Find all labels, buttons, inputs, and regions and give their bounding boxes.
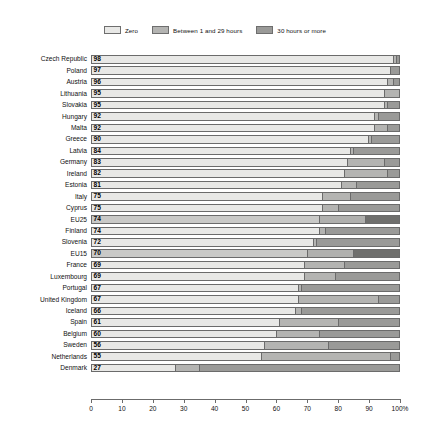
stacked-bar	[91, 352, 400, 361]
bar-value-label: 74	[94, 227, 101, 236]
bar-rows: Czech Republic98Poland97Austria96Lithuan…	[91, 55, 400, 375]
axis-tick-label: 100%	[392, 405, 409, 413]
category-label: Malta	[71, 123, 87, 132]
category-label: Lithuania	[60, 89, 87, 98]
bar-value-label: 60	[94, 330, 101, 339]
stacked-bar	[91, 341, 400, 350]
category-label: Portugal	[62, 283, 87, 292]
axis-tick-label: 40	[211, 405, 218, 413]
stacked-bar	[91, 147, 400, 156]
bar-segment-zero	[92, 228, 319, 235]
bar-segment-zero	[92, 67, 390, 74]
bar-value-label: 95	[94, 101, 101, 110]
bar-row: Hungary92	[91, 112, 400, 121]
category-label: Luxembourg	[50, 272, 87, 281]
axis-tick	[215, 399, 216, 403]
stacked-bar-chart: ZeroBetween 1 and 29 hours30 hours or mo…	[0, 0, 430, 444]
bar-segment-mid	[264, 342, 328, 349]
stacked-bar	[91, 78, 400, 87]
bar-value-label: 81	[94, 181, 101, 190]
category-label: Netherlands	[51, 352, 87, 361]
bar-value-label: 83	[94, 158, 101, 167]
axis-tick	[307, 399, 308, 403]
bar-row: Czech Republic98	[91, 55, 400, 64]
stacked-bar	[91, 307, 400, 316]
bar-segment-zero	[92, 125, 374, 132]
bar-segment-zero	[92, 182, 341, 189]
stacked-bar	[91, 227, 400, 236]
bar-segment-zero	[92, 331, 276, 338]
bar-segment-high	[393, 79, 399, 86]
bar-row: Germany83	[91, 158, 400, 167]
bar-value-label: 95	[94, 89, 101, 98]
bar-segment-zero	[92, 79, 387, 86]
bar-segment-zero	[92, 170, 344, 177]
axis-tick-label: 50	[242, 405, 249, 413]
category-label: Belgium	[63, 329, 87, 338]
bar-segment-high	[301, 308, 399, 315]
bar-segment-mid	[279, 319, 337, 326]
legend-label: Between 1 and 29 hours	[173, 27, 242, 34]
bar-segment-mid	[344, 170, 387, 177]
bar-segment-high	[384, 159, 399, 166]
stacked-bar	[91, 318, 400, 327]
bar-segment-zero	[92, 113, 374, 120]
category-label: EU25	[71, 215, 88, 224]
bar-segment-zero	[92, 193, 322, 200]
bar-value-label: 67	[94, 284, 101, 293]
axis-tick	[276, 399, 277, 403]
bar-value-label: 82	[94, 169, 101, 178]
bar-segment-high	[301, 285, 399, 292]
axis-tick	[400, 399, 401, 403]
stacked-bar	[91, 181, 400, 190]
bar-value-label: 66	[94, 307, 101, 316]
bar-segment-high	[396, 56, 399, 63]
bar-segment-zero	[92, 56, 393, 63]
bar-value-label: 72	[94, 238, 101, 247]
bar-segment-mid	[319, 216, 365, 223]
category-label: Denmark	[60, 363, 87, 372]
bar-value-label: 67	[94, 295, 101, 304]
bar-row: Slovenia72	[91, 238, 400, 247]
bar-segment-high	[328, 342, 399, 349]
legend-swatch-mid	[152, 26, 169, 34]
bar-segment-zero	[92, 296, 298, 303]
axis-tick	[184, 399, 185, 403]
bar-value-label: 96	[94, 78, 101, 87]
bar-segment-mid	[276, 331, 319, 338]
bar-value-label: 74	[94, 215, 101, 224]
stacked-bar	[91, 192, 400, 201]
bar-segment-mid	[322, 205, 337, 212]
bar-segment-zero	[92, 148, 350, 155]
bar-segment-high	[350, 193, 399, 200]
bar-row: EU1570	[91, 249, 400, 258]
legend-item-zero: Zero	[104, 26, 138, 34]
bar-value-label: 75	[94, 192, 101, 201]
bar-value-label: 70	[94, 249, 101, 258]
bar-segment-high	[344, 262, 399, 269]
bar-segment-zero	[92, 216, 319, 223]
axis-tick-label: 20	[149, 405, 156, 413]
bar-segment-high	[325, 228, 399, 235]
bar-segment-mid	[322, 193, 350, 200]
bar-value-label: 90	[94, 135, 101, 144]
bar-value-label: 75	[94, 204, 101, 213]
legend-label: 30 hours or more	[277, 27, 326, 34]
category-label: Austria	[66, 77, 87, 86]
stacked-bar	[91, 215, 400, 224]
stacked-bar	[91, 66, 400, 75]
stacked-bar	[91, 158, 400, 167]
axis-tick	[369, 399, 370, 403]
axis-tick-label: 60	[273, 405, 280, 413]
bar-row: Italy75	[91, 192, 400, 201]
bar-segment-zero	[92, 342, 264, 349]
bar-row: Estonia81	[91, 181, 400, 190]
category-label: Latvia	[69, 146, 87, 155]
bar-row: United Kingdom67	[91, 295, 400, 304]
bar-row: Belgium60	[91, 330, 400, 339]
bar-segment-mid	[304, 273, 335, 280]
bar-row: Luxembourg69	[91, 272, 400, 281]
bar-segment-high	[353, 148, 399, 155]
bar-value-label: 56	[94, 341, 101, 350]
axis-tick-label: 90	[365, 405, 372, 413]
